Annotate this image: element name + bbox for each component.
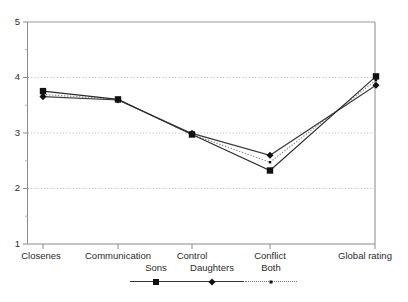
dot-marker (270, 281, 273, 284)
legend-key-sons (130, 276, 182, 288)
x-tick-label-control: Control (177, 251, 208, 261)
line-chart: 5 4 3 2 1 Closenes Communication Control… (0, 0, 408, 302)
chart-legend: Sons Daughters Both (130, 262, 305, 294)
legend-entry-daughters: Daughters (180, 262, 244, 288)
diamond-marker (208, 278, 215, 285)
series-sons (40, 73, 379, 174)
x-tick-label-conflict: Conflict (254, 251, 286, 261)
y-tick-label-3: 3 (6, 128, 20, 138)
legend-entry-both: Both (245, 262, 297, 288)
y-tick-label-4: 4 (6, 72, 20, 82)
y-axis-ticks (23, 22, 28, 244)
x-tick-label-communication: Communication (85, 251, 151, 261)
y-tick-label-1: 1 (6, 239, 20, 249)
legend-label-sons: Sons (130, 262, 182, 273)
x-tick-label-closenes: Closenes (21, 251, 61, 261)
legend-key-daughters (180, 276, 244, 288)
x-tick-label-global-rating: Global rating (338, 251, 392, 261)
legend-label-both: Both (245, 262, 297, 273)
x-axis-ticks (43, 244, 375, 249)
series-daughters (39, 82, 379, 159)
series-both (42, 79, 377, 163)
square-marker (153, 279, 159, 285)
grid-lines (28, 78, 374, 189)
y-tick-label-5: 5 (6, 17, 20, 27)
legend-label-daughters: Daughters (180, 262, 244, 273)
legend-key-both (245, 276, 297, 288)
y-tick-label-2: 2 (6, 183, 20, 193)
legend-entry-sons: Sons (130, 262, 182, 288)
